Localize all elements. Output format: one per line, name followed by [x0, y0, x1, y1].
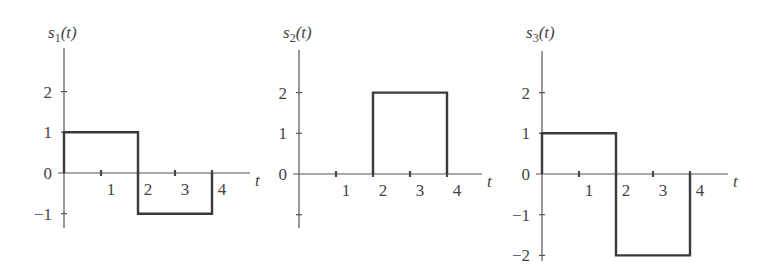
- x-tick-label: 1: [585, 181, 594, 200]
- x-tick-label: 1: [107, 180, 116, 199]
- x-tick-label: 3: [659, 181, 668, 200]
- y-axis-label: s2(t): [283, 23, 312, 45]
- y-tick-label: 0: [44, 164, 53, 183]
- x-ticks: 1234: [336, 171, 462, 200]
- y-ticks: 210−1: [34, 83, 67, 224]
- plot-s1: s1(t) 210−1 1234 t: [34, 23, 261, 228]
- plot-s2: s2(t) 210 1234 t: [279, 23, 494, 228]
- signal-line: [373, 93, 447, 174]
- x-ticks: 1234: [579, 171, 705, 200]
- y-tick-label: 0: [279, 165, 288, 184]
- y-tick-label: 1: [522, 124, 531, 143]
- x-axis-label: t: [255, 171, 261, 190]
- x-tick-label: 2: [144, 180, 153, 199]
- x-tick-label: 1: [342, 181, 351, 200]
- y-tick-label: −2: [512, 246, 530, 265]
- x-tick-label: 3: [416, 181, 425, 200]
- x-tick-label: 4: [696, 181, 705, 200]
- y-tick-label: 1: [44, 123, 53, 142]
- x-tick-label: 4: [453, 181, 462, 200]
- signal-figure: s1(t) 210−1 1234 t s2(t) 210 1234 t s3(t…: [0, 0, 772, 279]
- x-axis-label: t: [487, 172, 493, 191]
- x-axis-label: t: [733, 172, 739, 191]
- x-tick-label: 4: [218, 180, 227, 199]
- y-axis-label: s3(t): [526, 23, 555, 45]
- y-tick-label: −1: [512, 206, 530, 225]
- y-tick-label: 1: [279, 124, 288, 143]
- y-tick-label: 0: [522, 165, 531, 184]
- y-tick-label: −1: [34, 205, 52, 224]
- x-ticks: 1234: [101, 170, 227, 199]
- y-axis-label: s1(t): [48, 23, 77, 45]
- y-tick-label: 2: [279, 84, 288, 103]
- x-tick-label: 3: [181, 180, 190, 199]
- y-tick-label: 2: [522, 84, 531, 103]
- x-tick-label: 2: [622, 181, 631, 200]
- plot-s3: s3(t) 210−1−2 1234 t: [512, 23, 739, 265]
- x-tick-label: 2: [379, 181, 388, 200]
- signal-line: [542, 133, 690, 255]
- y-tick-label: 2: [44, 83, 53, 102]
